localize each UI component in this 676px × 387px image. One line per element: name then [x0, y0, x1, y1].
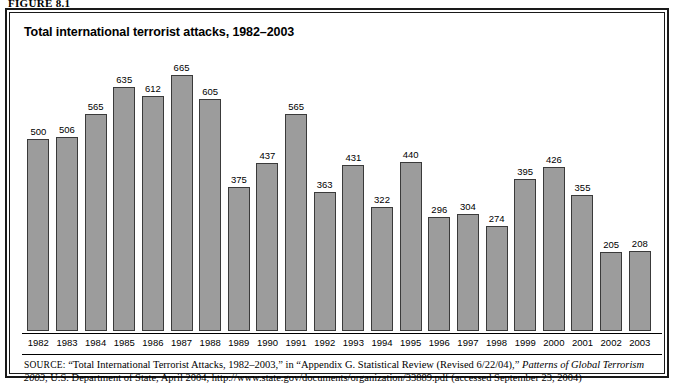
bar: [543, 167, 565, 331]
bar-group: 208: [625, 49, 654, 331]
bar-value-label: 304: [460, 201, 476, 212]
bar-group: 612: [139, 49, 168, 331]
x-axis-tick-label: 1988: [196, 337, 225, 348]
x-axis-tick-label: 1983: [53, 337, 82, 348]
bar: [457, 214, 479, 331]
source-divider: [22, 354, 662, 355]
bar-value-label: 440: [403, 149, 419, 160]
source-line1-part2: ,: [45, 372, 48, 383]
figure-box: Total international terrorist attacks, 1…: [5, 8, 669, 378]
bar: [199, 99, 221, 331]
x-axis-tick-label: 1998: [482, 337, 511, 348]
bar-value-label: 322: [374, 194, 390, 205]
x-axis-tick-labels: 1982198319841985198619871988198919901991…: [24, 337, 654, 348]
bar-value-label: 500: [30, 126, 46, 137]
bar-group: 355: [568, 49, 597, 331]
bar-group: 395: [511, 49, 540, 331]
bar: [400, 162, 422, 331]
bar: [142, 96, 164, 331]
bar-value-label: 635: [116, 74, 132, 85]
x-axis-tick-label: 1982: [24, 337, 53, 348]
bar-value-label: 375: [231, 174, 247, 185]
bar-group: 440: [396, 49, 425, 331]
bar-value-label: 437: [260, 150, 276, 161]
x-axis-tick-label: 1990: [253, 337, 282, 348]
x-axis-tick-label: 2002: [597, 337, 626, 348]
bar-value-label: 565: [288, 101, 304, 112]
page-title: Total international terrorist attacks, 1…: [24, 25, 294, 39]
x-axis-tick-label: 1997: [454, 337, 483, 348]
bar-value-label: 208: [632, 238, 648, 249]
bar-group: 565: [282, 49, 311, 331]
bar: [486, 226, 508, 331]
source-note: SOURCE: “Total International Terrorist A…: [24, 359, 662, 384]
bar-value-label: 612: [145, 83, 161, 94]
bar: [85, 114, 107, 331]
bar-group: 296: [425, 49, 454, 331]
bar-value-label: 605: [202, 86, 218, 97]
bar-value-label: 355: [575, 182, 591, 193]
x-axis-tick-label: 1984: [81, 337, 110, 348]
bar-group: 375: [224, 49, 253, 331]
x-axis-line: [22, 333, 662, 334]
bar: [600, 252, 622, 331]
figure-box-inner-border: Total international terrorist attacks, 1…: [9, 12, 665, 374]
bar-value-label: 274: [489, 213, 505, 224]
bar: [285, 114, 307, 331]
bar-value-label: 205: [603, 239, 619, 250]
bar-value-label: 431: [345, 152, 361, 163]
bar-group: 565: [81, 49, 110, 331]
bar: [171, 75, 193, 331]
bar: [228, 187, 250, 331]
bar-group: 665: [167, 49, 196, 331]
x-axis-tick-label: 1986: [139, 337, 168, 348]
source-prefix: SOURCE:: [24, 360, 66, 370]
x-axis-tick-label: 1987: [167, 337, 196, 348]
bar-group: 431: [339, 49, 368, 331]
bar: [428, 217, 450, 331]
bar: [342, 165, 364, 331]
bar: [629, 251, 651, 331]
bar: [27, 139, 49, 331]
source-line2: U.S. Department of State, April 2004, ht…: [50, 372, 582, 383]
chart-plot-area: 5005065656356126656053754375653634313224…: [24, 49, 654, 331]
bar-group: 205: [597, 49, 626, 331]
bar-group: 426: [540, 49, 569, 331]
x-axis-tick-label: 1995: [396, 337, 425, 348]
bar-group: 635: [110, 49, 139, 331]
x-axis-tick-label: 1985: [110, 337, 139, 348]
bar: [113, 87, 135, 331]
bar-value-label: 426: [546, 154, 562, 165]
bar-group: 274: [482, 49, 511, 331]
bar-group: 437: [253, 49, 282, 331]
x-axis-tick-label: 1994: [368, 337, 397, 348]
x-axis-tick-label: 2001: [568, 337, 597, 348]
bar-value-label: 395: [517, 166, 533, 177]
bar: [314, 192, 336, 331]
x-axis-tick-label: 1996: [425, 337, 454, 348]
bar-group: 363: [310, 49, 339, 331]
x-axis-tick-label: 1991: [282, 337, 311, 348]
x-axis-tick-label: 1989: [224, 337, 253, 348]
bar-value-label: 665: [174, 62, 190, 73]
bar-group: 304: [454, 49, 483, 331]
bar: [514, 179, 536, 331]
bar-value-label: 506: [59, 124, 75, 135]
bar-value-label: 296: [431, 204, 447, 215]
bar-series: 5005065656356126656053754375653634313224…: [24, 49, 654, 331]
x-axis-tick-label: 2000: [540, 337, 569, 348]
source-line1-part1: “Total International Terrorist Attacks, …: [68, 359, 522, 370]
bar-value-label: 363: [317, 179, 333, 190]
bar-group: 605: [196, 49, 225, 331]
x-axis-tick-label: 1999: [511, 337, 540, 348]
x-axis-tick-label: 1993: [339, 337, 368, 348]
x-axis-tick-label: 2003: [625, 337, 654, 348]
bar-value-label: 565: [88, 101, 104, 112]
bar-group: 322: [368, 49, 397, 331]
bar: [371, 207, 393, 331]
bar-group: 506: [53, 49, 82, 331]
x-axis-tick-label: 1992: [310, 337, 339, 348]
bar: [256, 163, 278, 331]
bar: [571, 195, 593, 331]
bar: [56, 137, 78, 331]
